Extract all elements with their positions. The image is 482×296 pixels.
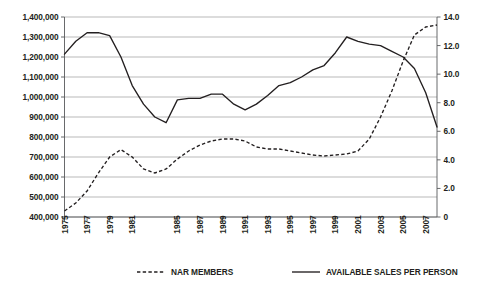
x-axis-label: 1989 xyxy=(218,215,228,234)
chart-container: 400,000500,000600,000700,000800,000900,0… xyxy=(0,0,482,296)
y-left-axis-labels: 400,000500,000600,000700,000800,000900,0… xyxy=(22,12,58,222)
y-right-axis-label: 0 xyxy=(444,212,449,222)
x-axis-label: 1995 xyxy=(285,215,295,234)
x-axis-label: 1979 xyxy=(105,215,115,234)
y-right-axis-label: 14.0 xyxy=(444,12,460,22)
y-left-axis-label: 1,100,000 xyxy=(22,72,58,82)
x-axis-labels: 1975197719791981198519871989199119931995… xyxy=(60,215,431,234)
y-left-axis-label: 1,200,000 xyxy=(22,52,58,62)
chart-legend: NAR MEMBERSAVAILABLE SALES PER PERSON xyxy=(137,267,458,277)
series-nar-members xyxy=(65,25,438,211)
x-axis-label: 2007 xyxy=(421,215,431,234)
legend-label-2: AVAILABLE SALES PER PERSON xyxy=(326,267,458,277)
legend-label-1: NAR MEMBERS xyxy=(171,267,234,277)
y-right-axis-label: 4.0 xyxy=(444,155,456,165)
x-axis-label: 2005 xyxy=(398,215,408,234)
x-axis-label: 1999 xyxy=(330,215,340,234)
y-left-axis-label: 800,000 xyxy=(29,132,59,142)
y-right-axis-label: 8.0 xyxy=(444,98,456,108)
y-left-axis-label: 400,000 xyxy=(29,212,59,222)
x-axis-label: 1985 xyxy=(172,215,182,234)
x-axis-label: 1977 xyxy=(82,215,92,234)
y-left-axis-label: 700,000 xyxy=(29,152,59,162)
series-available-sales-per-person xyxy=(65,33,438,127)
y-left-axis-label: 1,000,000 xyxy=(22,92,58,102)
dual-axis-line-chart: 400,000500,000600,000700,000800,000900,0… xyxy=(0,0,482,296)
x-axis-label: 2001 xyxy=(353,215,363,234)
x-axis-label: 2003 xyxy=(376,215,386,234)
y-left-axis-label: 1,400,000 xyxy=(22,12,58,22)
y-left-tick-marks xyxy=(61,17,65,217)
y-right-axis-label: 10.0 xyxy=(444,69,460,79)
y-right-tick-marks xyxy=(437,17,441,217)
x-axis-label: 1993 xyxy=(263,215,273,234)
x-axis-label: 1975 xyxy=(60,215,70,234)
x-axis-label: 1981 xyxy=(127,215,137,234)
y-left-axis-label: 900,000 xyxy=(29,112,59,122)
y-right-axis-labels: 02.04.06.08.010.012.014.0 xyxy=(444,12,460,222)
x-axis-label: 1987 xyxy=(195,215,205,234)
data-series-layer xyxy=(65,25,438,211)
y-right-axis-label: 12.0 xyxy=(444,41,460,51)
x-axis-label: 1997 xyxy=(308,215,318,234)
x-axis-label: 1991 xyxy=(240,215,250,234)
y-left-axis-label: 500,000 xyxy=(29,192,59,202)
y-right-axis-label: 2.0 xyxy=(444,183,456,193)
y-left-axis-label: 600,000 xyxy=(29,172,59,182)
y-left-axis-label: 1,300,000 xyxy=(22,32,58,42)
y-right-axis-label: 6.0 xyxy=(444,126,456,136)
